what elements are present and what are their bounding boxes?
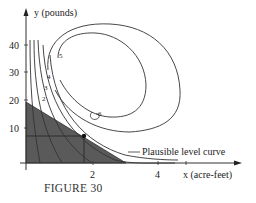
figure-30: 40 30 20 10 2 4 y (pounds) x (acre-feet)… bbox=[0, 0, 256, 203]
y-axis-label: y (pounds) bbox=[34, 7, 77, 19]
x-axis-label: x (acre-feet) bbox=[183, 169, 232, 181]
contour-label-4: 4 bbox=[47, 73, 51, 81]
contour-label-3: 3 bbox=[44, 84, 48, 92]
y-tick-10: 10 bbox=[9, 123, 19, 134]
y-axis-arrow-icon bbox=[24, 8, 29, 16]
y-tick-20: 20 bbox=[9, 95, 19, 106]
y-tick-30: 30 bbox=[9, 67, 19, 78]
figure-caption: FIGURE 30 bbox=[44, 182, 103, 194]
x-axis-arrow-icon bbox=[234, 161, 242, 166]
x-tick-2: 2 bbox=[90, 169, 95, 180]
contour-label-6: 6 bbox=[98, 110, 102, 118]
x-tick-4: 4 bbox=[155, 169, 160, 180]
y-tick-40: 40 bbox=[9, 40, 19, 51]
contour-plot: 40 30 20 10 2 4 y (pounds) x (acre-feet)… bbox=[0, 0, 256, 203]
contour-label-5: 5 bbox=[59, 52, 63, 60]
optimum-point bbox=[82, 134, 86, 138]
plausible-level-curve-label: Plausible level curve bbox=[142, 146, 226, 157]
contour-label-2: 2 bbox=[42, 95, 46, 103]
